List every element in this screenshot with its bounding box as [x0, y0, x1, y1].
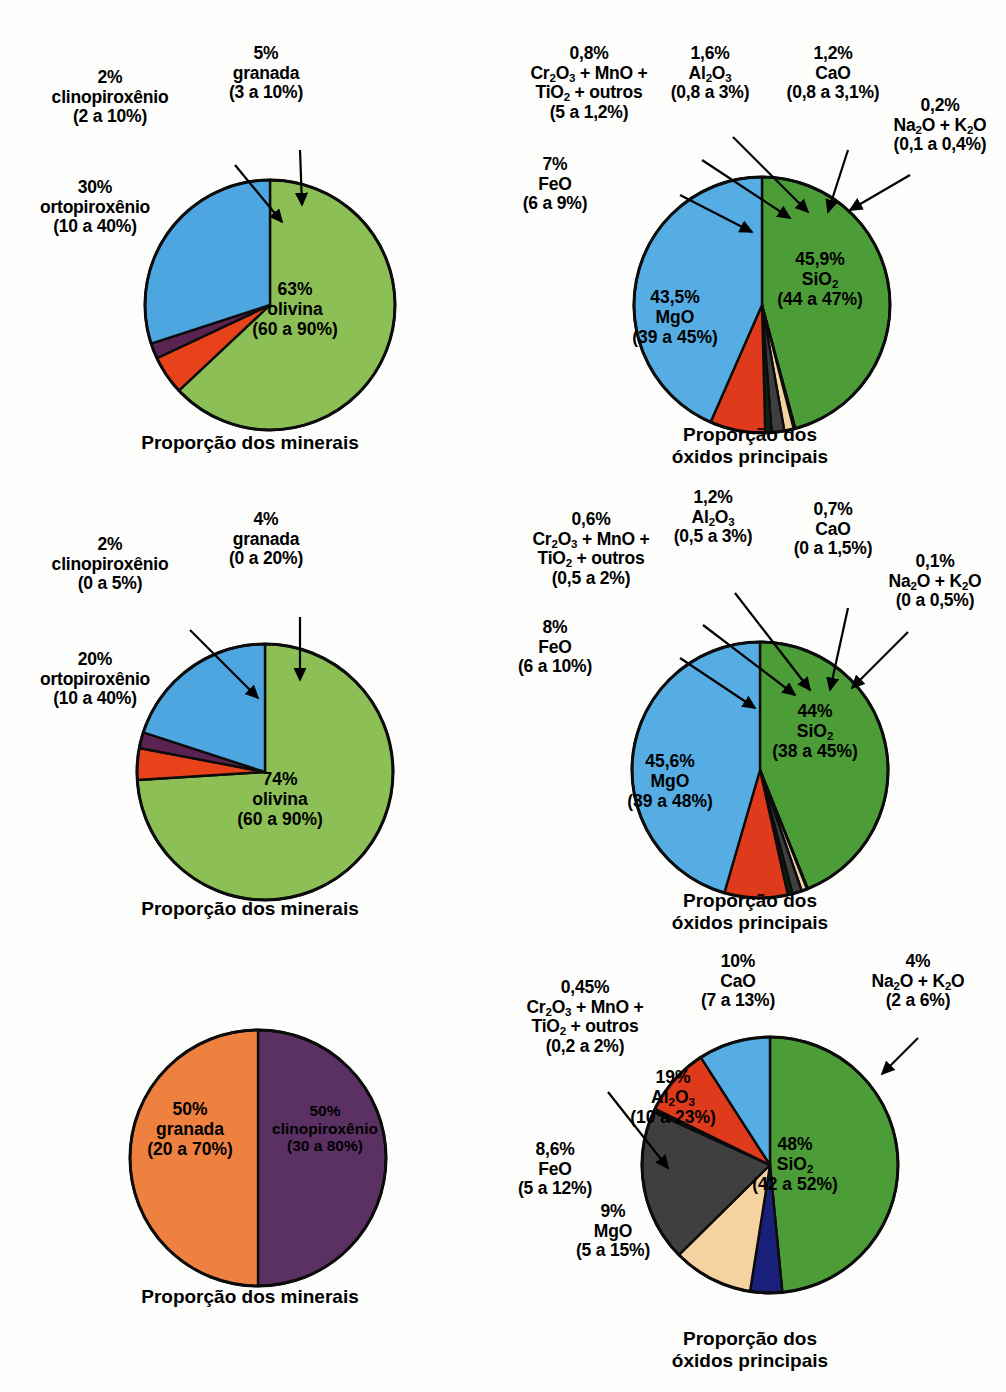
- sio2-formula: SiO2: [797, 721, 834, 741]
- feo-label: 8,6% FeO (5 a 12%): [490, 1140, 620, 1199]
- panel-title: Proporção dos óxidos principais: [600, 890, 900, 935]
- tio2-formula: TiO2 + outros: [537, 548, 644, 568]
- sio2-formula: SiO2: [777, 1154, 814, 1174]
- callout-arrow: [852, 632, 908, 688]
- granada-label: 5% granada (3 a 10%): [196, 44, 336, 103]
- al2o3-formula: Al2O3: [689, 63, 732, 83]
- feo-label: 7% FeO (6 a 9%): [500, 155, 610, 214]
- tio2-formula: TiO2 + outros: [535, 82, 642, 102]
- na2o-k2o-label: 4% Na2O + K2O (2 a 6%): [838, 952, 998, 1011]
- na2o-k2o-formula: Na2O + K2O: [893, 115, 986, 135]
- cr2o3-formula: Cr2O3 + MnO +: [532, 529, 649, 549]
- granada-slice-label: 50% granada (20 a 70%): [125, 1100, 255, 1159]
- clinopiroxenio-label: 2% clinopiroxênio (0 a 5%): [10, 535, 210, 594]
- al2o3-formula: Al2O3: [651, 1087, 695, 1107]
- mgo-formula: MgO: [594, 1221, 632, 1241]
- feo-formula: FeO: [538, 1159, 571, 1179]
- feo-formula: FeO: [538, 174, 571, 194]
- callout-arrow: [882, 1038, 918, 1074]
- cao-formula: CaO: [815, 519, 850, 539]
- tio2-formula: TiO2 + outros: [531, 1016, 638, 1036]
- sio2-slice-label: 45,9% SiO2 (44 a 47%): [745, 250, 895, 309]
- olivina-slice-label: 63% olivina (60 a 90%): [225, 280, 365, 339]
- mgo-label: 9% MgO (5 a 15%): [548, 1202, 678, 1261]
- panel-title: Proporção dos minerais: [80, 898, 420, 920]
- granada-label: 4% granada (0 a 20%): [196, 510, 336, 569]
- panel-dunite-minerals: 74% olivina (60 a 90%) 20% ortopiroxênio…: [0, 480, 500, 930]
- mgo-formula: MgO: [656, 307, 695, 327]
- panel-dunite-oxides: 44% SiO2 (38 a 45%) 45,6% MgO (39 a 48%)…: [490, 480, 1006, 950]
- mgo-slice-label: 43,5% MgO (39 a 45%): [600, 288, 750, 347]
- clinopiroxenio-label: 2% clinopiroxênio (2 a 10%): [10, 68, 210, 127]
- ortopiroxenio-label: 20% ortopiroxênio (10 a 40%): [0, 650, 190, 709]
- mgo-slice-label: 45,6% MgO (39 a 48%): [595, 752, 745, 811]
- cao-formula: CaO: [720, 971, 755, 991]
- panel-peridotite-oxides: 45,9% SiO2 (44 a 47%) 43,5% MgO (39 a 45…: [490, 0, 1006, 478]
- panel-title: Proporção dos óxidos principais: [600, 1328, 900, 1373]
- al2o3-label: 1,6% Al2O3 (0,8 a 3%): [645, 44, 775, 103]
- cao-label: 10% CaO (7 a 13%): [668, 952, 808, 1011]
- olivina-slice-label: 74% olivina (60 a 90%): [190, 770, 370, 829]
- panel-title: Proporção dos minerais: [80, 1286, 420, 1308]
- panel-title: Proporção dos óxidos principais: [600, 424, 900, 469]
- clinopiroxenio-slice-label: 50% clinopiroxênio (30 a 80%): [250, 1102, 400, 1155]
- panel-title: Proporção dos minerais: [80, 432, 420, 454]
- feo-label: 8% FeO (6 a 10%): [500, 618, 610, 677]
- cao-formula: CaO: [815, 63, 850, 83]
- sio2-slice-label: 48% SiO2 (42 a 52%): [720, 1135, 870, 1194]
- panel-peridotite-minerals: 63% olivina (60 a 90%) 30% ortopiroxênio…: [0, 0, 500, 470]
- cr2o3-formula: Cr2O3 + MnO +: [530, 63, 647, 83]
- ortopiroxenio-label: 30% ortopiroxênio (10 a 40%): [0, 178, 190, 237]
- na2o-k2o-formula: Na2O + K2O: [871, 971, 964, 991]
- cao-label: 0,7% CaO (0 a 1,5%): [758, 500, 908, 559]
- na2o-k2o-label: 0,1% Na2O + K2O (0 a 0,5%): [860, 552, 1006, 611]
- mgo-formula: MgO: [651, 771, 690, 791]
- cr2o3-label: 0,45% Cr2O3 + MnO + TiO2 + outros (0,2 a…: [482, 978, 688, 1056]
- pie-slice-clinopirox-nio[interactable]: [258, 1030, 386, 1286]
- al2o3-slice-label: 19% Al2O3 (10 a 23%): [598, 1068, 748, 1127]
- cao-label: 1,2% CaO (0,8 a 3,1%): [758, 44, 908, 103]
- sio2-formula: SiO2: [802, 269, 839, 289]
- na2o-k2o-label: 0,2% Na2O + K2O (0,1 a 0,4%): [865, 96, 1006, 155]
- panel-eclogite-minerals: 50% granada (20 a 70%) 50% clinopiroxêni…: [0, 950, 500, 1350]
- sio2-slice-label: 44% SiO2 (38 a 45%): [740, 702, 890, 761]
- na2o-k2o-formula: Na2O + K2O: [888, 571, 981, 591]
- cr2o3-formula: Cr2O3 + MnO +: [526, 997, 643, 1017]
- feo-formula: FeO: [538, 637, 571, 657]
- figure-root: 63% olivina (60 a 90%) 30% ortopiroxênio…: [0, 0, 1006, 1392]
- callout-arrow: [850, 175, 910, 210]
- al2o3-formula: Al2O3: [692, 507, 735, 527]
- panel-eclogite-oxides: 48% SiO2 (42 a 52%) 19% Al2O3 (10 a 23%)…: [490, 950, 1006, 1392]
